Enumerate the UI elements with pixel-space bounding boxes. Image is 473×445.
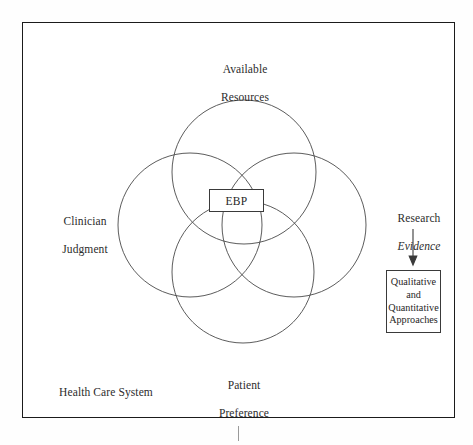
label-research-evidence: Research Evidence xyxy=(374,197,464,267)
approaches-box-line3: Quantitative xyxy=(388,302,438,315)
approaches-box: Qualitative and Quantitative Approaches xyxy=(386,270,441,333)
label-research-evidence-line2: Evidence xyxy=(374,239,464,253)
label-health-care-system-line1: Health Care System xyxy=(36,385,176,399)
ebp-center-box-label: EBP xyxy=(226,195,248,207)
label-patient-preference-line2: Preference xyxy=(190,406,298,420)
label-research-evidence-line1: Research xyxy=(374,211,464,225)
label-patient-preference-line1: Patient xyxy=(190,378,298,392)
approaches-box-line2: and xyxy=(406,289,421,302)
label-clinician-judgment-line2: Judgment xyxy=(33,242,137,256)
label-available-resources-line1: Available xyxy=(189,62,301,76)
label-clinician-judgment: Clinician Judgment xyxy=(33,200,137,270)
label-available-resources-line2: Resources xyxy=(189,90,301,104)
ebp-center-box: EBP xyxy=(209,189,264,212)
page-tick-mark xyxy=(238,426,239,441)
figure-page: Available Resources Clinician Judgment R… xyxy=(0,0,473,445)
approaches-box-line4: Approaches xyxy=(389,314,438,327)
label-clinician-judgment-line1: Clinician xyxy=(33,214,137,228)
label-available-resources: Available Resources xyxy=(189,48,301,118)
label-patient-preference: Patient Preference xyxy=(190,364,298,434)
label-health-care-system: Health Care System xyxy=(36,371,176,413)
approaches-box-line1: Qualitative xyxy=(391,276,436,289)
